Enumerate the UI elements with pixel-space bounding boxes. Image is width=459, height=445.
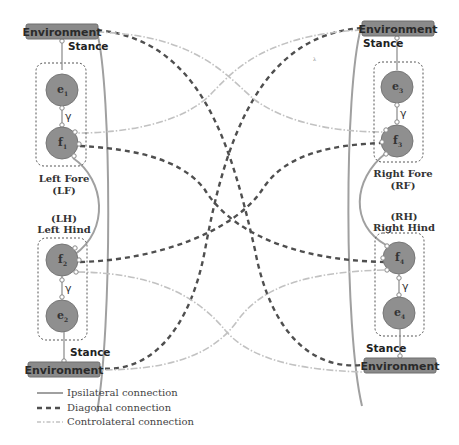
synapse-icon (77, 258, 81, 262)
leg-group-right-fore: e 3 γ f 3 Right Fore (RF) (373, 36, 432, 191)
synapse-icon (380, 140, 384, 144)
svg-text:1: 1 (64, 90, 68, 97)
leg-group-left-hind: (LH) Left Hind f 2 γ e 2 (37, 213, 90, 363)
neuron-e4-label: e (394, 306, 401, 319)
synapse-icon (72, 154, 76, 158)
controlateral-f4-to-lh-env (97, 270, 384, 370)
synapse-icon (385, 244, 389, 248)
synapse-icon (381, 256, 385, 260)
stance-label: Stance (70, 346, 111, 358)
legend: Ipsilateral connection Diagonal connecti… (37, 387, 194, 427)
svg-text:2: 2 (64, 316, 68, 323)
cpg-diagram: e 1 γ f 1 Left Fore (LF) (LH) Left Hind … (0, 0, 459, 445)
synapse-icon (60, 295, 64, 299)
controlateral-rf-env-to-f1 (78, 30, 362, 133)
stance-label: Stance (68, 40, 109, 52)
stance-label: Stance (366, 342, 407, 354)
synapse-icon (395, 120, 399, 124)
leg-name-rf: Right Fore (373, 168, 432, 179)
controlateral-f2-to-rh-env (78, 272, 362, 372)
synapse-icon (74, 270, 78, 274)
synapse-icon (385, 268, 389, 272)
gamma-label: γ (65, 282, 72, 295)
environment-top-left: Environment Stance (22, 24, 108, 52)
diagonal-lf-env-to-rh-env (97, 30, 362, 365)
diagonal-rf-env-to-lh-env (97, 28, 362, 369)
neuron-e1-label: e (57, 83, 64, 96)
leg-abbr-rf: (RF) (391, 180, 416, 191)
svg-text:4: 4 (400, 258, 404, 265)
leg-name-lf: Left Fore (39, 173, 90, 184)
controlateral-lf-env-to-f3 (97, 32, 384, 132)
stray-mark: λ (313, 56, 317, 62)
svg-text:2: 2 (63, 260, 67, 267)
neuron-e3-label: e (392, 80, 399, 93)
synapse-icon (384, 152, 388, 156)
controlateral-connections (78, 30, 384, 372)
leg-name-rh: Right Hind (373, 222, 435, 233)
environment-label: Environment (22, 26, 101, 39)
legend-label-ipsilateral: Ipsilateral connection (67, 387, 178, 398)
synapse-icon (77, 142, 81, 146)
leg-abbr-rh: (RH) (390, 211, 417, 222)
synapse-icon (397, 276, 401, 280)
synapse-icon (395, 103, 399, 107)
gamma-label: γ (400, 107, 407, 120)
environment-label: Environment (24, 364, 103, 377)
gamma-label: γ (402, 280, 409, 293)
ipsilateral-right-rail (348, 28, 362, 406)
environment-top-right: Environment Stance (358, 21, 437, 49)
svg-text:3: 3 (399, 87, 403, 94)
environment-bottom-right: Stance Environment (360, 342, 439, 373)
diagonal-connections (80, 28, 384, 369)
synapse-icon (384, 128, 388, 132)
leg-abbr-lf: (LF) (52, 185, 76, 196)
svg-text:3: 3 (398, 141, 402, 148)
synapse-icon (73, 130, 77, 134)
leg-abbr-lh: (LH) (51, 213, 77, 224)
synapse-icon (60, 278, 64, 282)
legend-label-diagonal: Diagonal connection (67, 402, 172, 413)
gamma-label: γ (65, 110, 72, 123)
leg-group-right-hind: (RH) Right Hind f 4 γ e 4 (373, 211, 435, 358)
neuron-e2-label: e (57, 309, 64, 322)
svg-text:4: 4 (401, 313, 405, 320)
synapse-icon (73, 246, 77, 250)
stance-label: Stance (363, 37, 404, 49)
environment-label: Environment (360, 360, 439, 373)
leg-name-lh: Left Hind (37, 224, 90, 235)
svg-text:1: 1 (63, 143, 67, 150)
environment-label: Environment (358, 23, 437, 36)
environment-bottom-left: Stance Environment (24, 346, 110, 377)
legend-label-controlateral: Controlateral connection (67, 416, 194, 427)
leg-group-left-fore: e 1 γ f 1 Left Fore (LF) (36, 39, 89, 196)
synapse-icon (60, 106, 64, 110)
